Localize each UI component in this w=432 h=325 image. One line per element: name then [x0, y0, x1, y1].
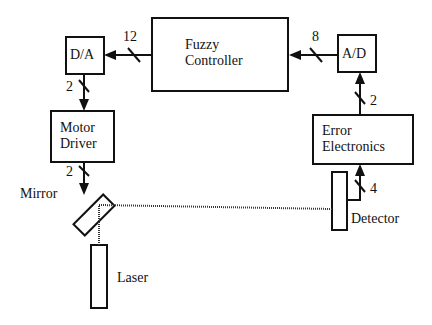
motor-label-line1: Motor [60, 120, 97, 136]
bus-width-detector-error: 4 [370, 182, 377, 196]
fuzzy-controller-label: Fuzzy Controller [185, 37, 243, 69]
bus-width-12: 12 [123, 30, 137, 44]
error-label-line1: Error [322, 123, 385, 139]
detector-label: Detector [351, 211, 399, 227]
motor-driver-label: Motor Driver [60, 120, 97, 152]
bus-width-da-motor: 2 [66, 80, 73, 94]
da-label: D/A [70, 47, 94, 63]
bus-width-motor-mirror: 2 [66, 165, 73, 179]
fuzzy-label-line1: Fuzzy [185, 37, 243, 53]
mirror-shape [73, 194, 114, 235]
laser-label: Laser [117, 270, 148, 286]
error-electronics-label: Error Electronics [322, 123, 385, 155]
bus-width-error-ad: 2 [370, 94, 377, 108]
mirror-label: Mirror [20, 186, 57, 202]
detector-box [332, 172, 347, 230]
ad-label: A/D [342, 46, 366, 62]
fuzzy-label-line2: Controller [185, 53, 243, 69]
motor-label-line2: Driver [60, 136, 97, 152]
bus-width-8: 8 [312, 30, 319, 44]
error-label-line2: Electronics [322, 139, 385, 155]
laser-box [91, 245, 107, 308]
